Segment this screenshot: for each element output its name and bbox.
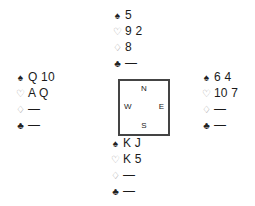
- spade-icon: ♠: [111, 136, 120, 152]
- east-diamonds: —: [214, 102, 226, 116]
- east-spades-row: ♠6 4: [202, 69, 238, 85]
- spade-icon: ♠: [202, 70, 211, 86]
- west-diamonds-row: ♢—: [16, 101, 55, 117]
- diamond-icon: ♢: [16, 102, 25, 118]
- north-spades: 5: [125, 8, 132, 22]
- north-clubs-row: ♣—: [113, 55, 142, 71]
- south-hearts-row: ♡K 5: [111, 151, 142, 167]
- south-diamonds-row: ♢—: [111, 167, 142, 183]
- west-hand: ♠Q 10 ♡A Q ♢— ♣—: [16, 69, 55, 133]
- west-clubs: —: [28, 118, 40, 132]
- heart-icon: ♡: [113, 24, 122, 40]
- club-icon: ♣: [16, 118, 25, 134]
- south-diamonds: —: [123, 168, 135, 182]
- west-hearts-row: ♡A Q: [16, 85, 55, 101]
- east-diamonds-row: ♢—: [202, 101, 238, 117]
- north-diamonds: 8: [125, 40, 132, 54]
- north-hand: ♠5 ♡9 2 ♢8 ♣—: [113, 7, 142, 71]
- south-hand: ♠K J ♡K 5 ♢— ♣—: [111, 135, 142, 199]
- north-clubs: —: [125, 56, 137, 70]
- club-icon: ♣: [113, 56, 122, 72]
- spade-icon: ♠: [16, 70, 25, 86]
- compass-box: N W E S: [118, 79, 170, 136]
- east-hearts: 10 7: [214, 86, 238, 100]
- north-diamonds-row: ♢8: [113, 39, 142, 55]
- compass-east-label: E: [159, 103, 164, 111]
- compass-west-label: W: [124, 103, 132, 111]
- east-hearts-row: ♡10 7: [202, 85, 238, 101]
- west-clubs-row: ♣—: [16, 117, 55, 133]
- diamond-icon: ♢: [113, 40, 122, 56]
- south-spades-row: ♠K J: [111, 135, 142, 151]
- heart-icon: ♡: [111, 152, 120, 168]
- north-hearts: 9 2: [125, 24, 142, 38]
- spade-icon: ♠: [113, 8, 122, 24]
- diamond-icon: ♢: [111, 168, 120, 184]
- club-icon: ♣: [202, 118, 211, 134]
- south-clubs-row: ♣—: [111, 183, 142, 199]
- east-spades: 6 4: [214, 70, 231, 84]
- compass-south-label: S: [120, 122, 168, 130]
- club-icon: ♣: [111, 184, 120, 200]
- south-spades: K J: [123, 136, 141, 150]
- north-spades-row: ♠5: [113, 7, 142, 23]
- heart-icon: ♡: [202, 86, 211, 102]
- west-spades: Q 10: [28, 70, 55, 84]
- heart-icon: ♡: [16, 86, 25, 102]
- west-hearts: A Q: [28, 86, 49, 100]
- south-hearts: K 5: [123, 152, 142, 166]
- east-hand: ♠6 4 ♡10 7 ♢— ♣—: [202, 69, 238, 133]
- south-clubs: —: [123, 184, 135, 198]
- east-clubs: —: [214, 118, 226, 132]
- compass-north-label: N: [120, 85, 168, 93]
- west-spades-row: ♠Q 10: [16, 69, 55, 85]
- west-diamonds: —: [28, 102, 40, 116]
- north-hearts-row: ♡9 2: [113, 23, 142, 39]
- diamond-icon: ♢: [202, 102, 211, 118]
- east-clubs-row: ♣—: [202, 117, 238, 133]
